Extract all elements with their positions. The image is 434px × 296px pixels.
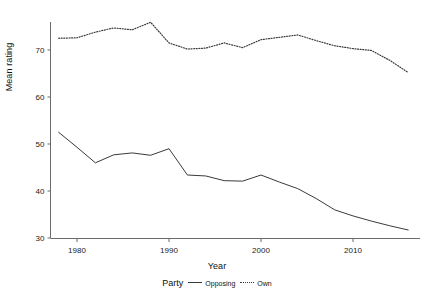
series-line-opposing [59, 132, 409, 230]
y-tick-label: 40 [36, 187, 45, 196]
legend: Party Opposing Own [0, 278, 434, 288]
y-tick-label: 60 [36, 93, 45, 102]
x-tick-label: 2000 [252, 246, 270, 255]
y-tick-label: 50 [36, 140, 45, 149]
x-tick-group: 1980199020002010 [68, 239, 362, 256]
x-tick-label: 1980 [68, 246, 86, 255]
y-tick-label: 30 [36, 234, 45, 243]
axis-lines [51, 22, 421, 239]
x-tick-label: 2010 [344, 246, 362, 255]
y-tick-group: 3040506070 [36, 46, 51, 243]
series-line-own [59, 22, 409, 72]
y-tick-label: 70 [36, 46, 45, 55]
legend-label-own: Own [257, 280, 271, 287]
legend-label-opposing: Opposing [205, 280, 235, 287]
series-group [59, 22, 409, 230]
legend-title: Party [162, 278, 183, 288]
x-tick-label: 1990 [160, 246, 178, 255]
legend-entry-own[interactable]: Own [240, 280, 271, 287]
y-axis-title: Mean rating [4, 22, 14, 112]
legend-key-solid-line-icon [188, 282, 202, 284]
x-axis-title: Year [0, 261, 434, 271]
line-chart: 3040506070 1980199020002010 Mean rating … [0, 0, 434, 296]
legend-entry-opposing[interactable]: Opposing [188, 280, 235, 287]
legend-key-dotted-line-icon [240, 282, 254, 284]
plot-area: 3040506070 1980199020002010 [0, 0, 434, 296]
